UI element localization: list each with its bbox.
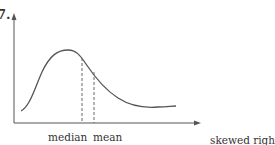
caption: skewed right xyxy=(210,134,275,145)
mean-label: mean xyxy=(93,131,122,143)
median-label: median xyxy=(48,131,87,143)
distribution-curve xyxy=(21,50,176,111)
skewed-distribution-diagram xyxy=(0,0,275,145)
x-axis-arrow-icon xyxy=(194,121,201,126)
y-axis-arrow-icon xyxy=(12,13,17,20)
